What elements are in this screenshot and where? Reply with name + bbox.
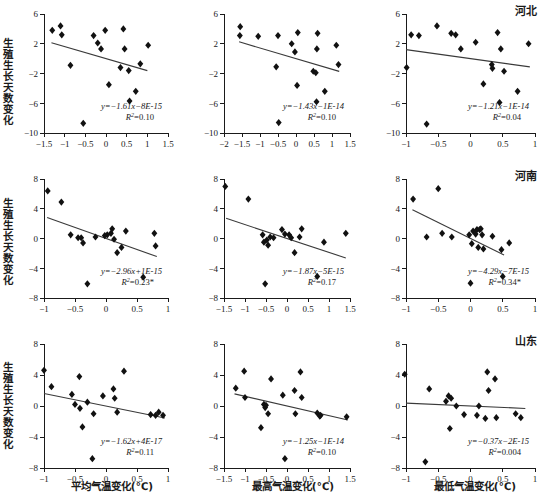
- x-tick-label: 1: [330, 139, 335, 149]
- data-point: [151, 230, 157, 237]
- x-tick-label: 1: [533, 304, 538, 314]
- data-point: [492, 375, 498, 382]
- data-point: [315, 30, 321, 37]
- x-tick-label: 0.5: [121, 139, 133, 149]
- region-label-1: 河南: [515, 167, 537, 183]
- data-point: [289, 40, 295, 47]
- data-point: [469, 240, 475, 247]
- x-tick-label: −0.5: [258, 304, 275, 314]
- regression-equation: y=−1.43x−1E-14: [282, 101, 345, 111]
- data-point: [276, 119, 282, 126]
- y-tick-label: 4: [396, 204, 401, 214]
- r-squared-label: R2=0.10: [307, 447, 336, 457]
- data-point: [506, 239, 512, 246]
- x-tick-label: 0: [468, 304, 473, 314]
- data-point: [280, 392, 286, 399]
- r-squared-label: R2=0.34*: [488, 277, 521, 287]
- x-tick-label: 0.5: [302, 304, 314, 314]
- data-point: [273, 63, 279, 70]
- y-tick-label: −6: [28, 99, 38, 109]
- data-point: [77, 405, 83, 412]
- y-tick-label: 4: [34, 204, 39, 214]
- data-point: [402, 371, 408, 378]
- data-point: [268, 375, 274, 382]
- x-tick-label: 1.5: [344, 139, 356, 149]
- data-point: [241, 368, 247, 375]
- r-squared-label: R2=0.11: [125, 447, 154, 457]
- data-point: [137, 60, 143, 67]
- data-point: [493, 414, 499, 421]
- data-point: [435, 185, 441, 192]
- data-point: [265, 410, 271, 417]
- x-tick-label: −1.5: [36, 139, 53, 149]
- x-axis-title-0: 平均气温变化(℃): [44, 478, 180, 493]
- scatter-panel-r0-c1: −10−6−226−2−1.5−1−0.500.511.5y=−1.43x−1E…: [180, 0, 362, 165]
- data-point: [474, 412, 480, 419]
- y-tick-label: −8: [28, 463, 38, 473]
- data-point: [294, 82, 300, 89]
- data-point: [495, 29, 501, 36]
- data-point: [80, 120, 86, 127]
- y-tick-label: 8: [34, 174, 39, 184]
- y-tick-label: −8: [390, 293, 400, 303]
- data-point: [292, 410, 298, 417]
- x-tick-label: 0.5: [497, 304, 509, 314]
- data-point: [424, 120, 430, 127]
- data-point: [416, 32, 422, 39]
- data-point: [434, 22, 440, 29]
- x-tick-label: 1.5: [344, 304, 356, 314]
- data-point: [295, 29, 301, 36]
- y-tick-label: −6: [390, 99, 400, 109]
- x-tick-label: −1.5: [216, 304, 233, 314]
- data-point: [121, 368, 127, 375]
- data-point: [45, 187, 51, 194]
- data-point: [282, 455, 288, 462]
- data-point: [242, 394, 248, 401]
- x-tick-label: 1: [166, 304, 171, 314]
- y-tick-label: 4: [214, 370, 219, 380]
- data-point: [122, 45, 128, 52]
- data-point: [468, 280, 474, 287]
- data-point: [120, 25, 126, 32]
- data-point: [153, 242, 159, 249]
- trend-line: [406, 403, 525, 408]
- r-squared-label: R2=0.23*: [121, 277, 154, 287]
- data-point: [76, 373, 82, 380]
- data-point: [262, 280, 268, 287]
- scatter-panel-r2-c0: −8−4048−1−0.500.51y=−1.62x+4E-17R2=0.11: [0, 330, 180, 500]
- data-point: [408, 31, 414, 38]
- y-tick-label: −4: [28, 264, 38, 274]
- data-point: [100, 392, 106, 399]
- x-tick-label: 0: [285, 304, 290, 314]
- y-tick-label: −2: [28, 69, 38, 79]
- y-axis-title: 生殖生长天数变化: [2, 362, 13, 450]
- x-tick-label: 1: [533, 139, 538, 149]
- x-tick-label: −1.5: [234, 139, 251, 149]
- data-point: [133, 88, 139, 95]
- data-point: [475, 244, 481, 251]
- data-point: [148, 411, 154, 418]
- data-point: [484, 368, 490, 375]
- data-point: [499, 246, 505, 253]
- y-tick-label: −4: [390, 264, 400, 274]
- x-tick-label: 0: [294, 139, 299, 149]
- scatter-panel-r0-c2: −10−6−226−1−0.500.51y=−1.21x−1E-14R2=0.0…: [362, 0, 547, 165]
- y-tick-label: −2: [390, 69, 400, 79]
- data-point: [501, 68, 507, 75]
- data-point: [237, 32, 243, 39]
- x-tick-label: 1: [327, 304, 332, 314]
- x-tick-label: 0: [468, 139, 473, 149]
- x-tick-label: −1: [39, 304, 49, 314]
- data-point: [299, 394, 305, 401]
- y-tick-label: −10: [204, 128, 219, 138]
- y-tick-label: 8: [396, 339, 401, 349]
- trend-line: [406, 50, 530, 67]
- data-point: [404, 64, 410, 71]
- trend-line: [51, 43, 147, 71]
- data-point: [424, 233, 430, 240]
- data-point: [297, 368, 303, 375]
- data-point: [482, 415, 488, 422]
- y-tick-label: −10: [24, 128, 39, 138]
- data-point: [518, 414, 524, 421]
- y-tick-label: −10: [386, 128, 401, 138]
